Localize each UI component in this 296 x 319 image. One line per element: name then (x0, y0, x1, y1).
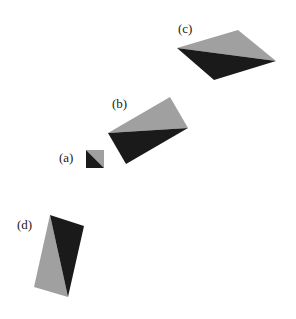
label-d: (d) (17, 217, 32, 233)
shape-c (177, 30, 276, 80)
figure: (a) (b) (c) (d) (0, 0, 296, 319)
shape-d (34, 215, 84, 297)
shape-b-dark (108, 128, 188, 164)
label-c: (c) (178, 21, 192, 37)
shape-a (86, 150, 104, 168)
label-a: (a) (59, 150, 73, 166)
shapes-svg (0, 0, 296, 319)
label-b: (b) (112, 96, 127, 112)
